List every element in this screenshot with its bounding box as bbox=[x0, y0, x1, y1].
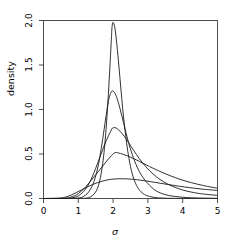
curve-group bbox=[44, 22, 218, 198]
x-tick-label: 5 bbox=[215, 207, 221, 216]
x-tick-label: 4 bbox=[180, 207, 186, 216]
density-plot: density σ 0123450.00.51.01.52.0 bbox=[0, 0, 231, 243]
x-tick-label: 3 bbox=[145, 207, 151, 216]
x-tick-label: 2 bbox=[110, 207, 116, 216]
curve-1 bbox=[44, 22, 218, 198]
x-axis-title: σ bbox=[112, 226, 118, 237]
y-axis-title: density bbox=[5, 61, 16, 96]
x-tick-label: 0 bbox=[41, 207, 47, 216]
y-tick-label: 1.5 bbox=[24, 55, 33, 75]
curve-5 bbox=[44, 179, 218, 199]
y-tick-label: 2.0 bbox=[24, 10, 33, 30]
plot-frame bbox=[44, 21, 218, 199]
y-tick-label: 1.0 bbox=[24, 99, 33, 119]
x-tick-label: 1 bbox=[75, 207, 81, 216]
y-tick-label: 0.5 bbox=[24, 144, 33, 164]
curve-4 bbox=[44, 152, 218, 198]
y-tick-label: 0.0 bbox=[24, 188, 33, 208]
